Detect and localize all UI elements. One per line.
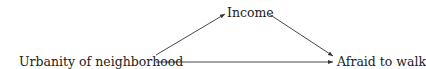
edge-income-to-afraid	[269, 14, 333, 56]
node-urbanity: Urbanity of neighborhood	[19, 56, 183, 69]
node-income: Income	[227, 7, 274, 20]
edge-urbanity-to-income	[156, 14, 225, 55]
node-afraid-to-walk: Afraid to walk	[337, 56, 426, 69]
